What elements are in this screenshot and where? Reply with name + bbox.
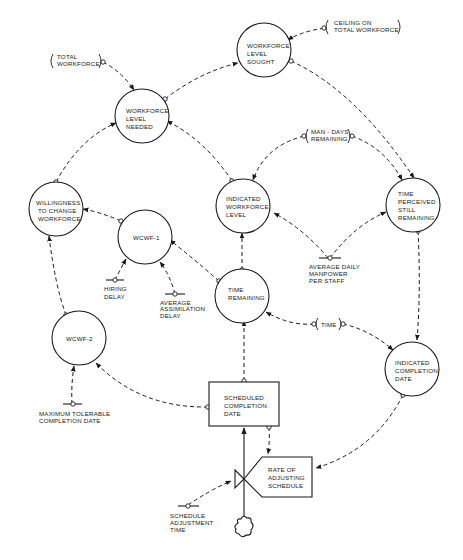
- node-label: SOUGHT: [247, 58, 275, 65]
- node-label: INDICATED: [226, 195, 261, 202]
- node-label: ASSIMILATION: [160, 305, 205, 312]
- level-scheduled-completion-date: SCHEDULED COMPLETION DATE: [209, 382, 279, 426]
- aux-workforce-level-needed: WORKFORCE LEVEL NEEDED: [115, 89, 169, 143]
- node-label: AVERAGE DAILY: [309, 263, 360, 270]
- node-label: WORKFORCE: [247, 42, 290, 49]
- node-label: TO CHANGE: [38, 207, 76, 214]
- const-average-daily-manpower-per-staff: AVERAGE DAILY MANPOWER PER STAFF: [309, 256, 360, 284]
- node-label: CEILING ON: [334, 19, 372, 26]
- node-label: WORKFORCE: [126, 107, 169, 114]
- node-label: WCWF-2: [66, 335, 93, 342]
- node-label: SCHEDULE: [268, 482, 303, 489]
- node-label: REMAINING: [311, 135, 348, 142]
- node-label: LEVEL: [126, 115, 147, 122]
- system-dynamics-diagram: WORKFORCE LEVEL SOUGHT WORKFORCE LEVEL N…: [0, 0, 463, 560]
- ext-man-days-remaining: MAN - DAYS REMAINING: [306, 128, 350, 143]
- const-schedule-adjustment-time: SCHEDULE ADJUSTMENT TIME: [170, 504, 214, 533]
- const-hiring-delay: HIRING DELAY: [104, 278, 127, 300]
- node-label: ADJUSTING: [268, 474, 305, 481]
- aux-wcwf-1: WCWF-1: [118, 210, 172, 264]
- node-label: REMAINING: [398, 214, 435, 221]
- rate-of-adjusting-schedule: RATE OF ADJUSTING SCHEDULE: [244, 457, 312, 497]
- node-label: WILLINGNESS: [36, 199, 81, 206]
- node-label: INDICATED: [395, 359, 430, 366]
- ext-ceiling-on-total-workforce: CEILING ON TOTAL WORKFORCE: [326, 19, 400, 34]
- node-label: TIME: [398, 190, 414, 197]
- node-label: REMAINING: [228, 294, 265, 301]
- node-label: WORKFORCE: [38, 215, 81, 222]
- node-label: TOTAL: [57, 53, 78, 60]
- aux-time-remaining: TIME REMAINING: [215, 269, 269, 323]
- node-label: MAXIMUM TOLERABLE: [39, 410, 110, 417]
- node-label: DELAY: [104, 293, 125, 300]
- aux-workforce-level-sought: WORKFORCE LEVEL SOUGHT: [237, 23, 291, 77]
- aux-willingness-to-change-workforce: WILLINGNESS TO CHANGE WORKFORCE: [29, 182, 83, 236]
- node-label: TIME: [170, 526, 186, 533]
- node-label: DELAY: [160, 312, 181, 319]
- rate-valve: [235, 470, 244, 488]
- node-label: TIME: [228, 286, 244, 293]
- aux-indicated-workforce-level: INDICATED WORKFORCE LEVEL: [216, 179, 270, 233]
- node-label: RATE OF: [268, 466, 296, 473]
- const-average-assimilation-delay: AVERAGE ASSIMILATION DELAY: [160, 292, 205, 319]
- node-label: SCHEDULE: [170, 512, 205, 519]
- node-label: WORKFORCE: [226, 203, 269, 210]
- node-label: TIME: [321, 321, 337, 328]
- node-label: PER STAFF: [309, 277, 344, 284]
- ext-time: TIME: [316, 318, 341, 330]
- node-label: COMPLETION: [395, 367, 438, 374]
- node-label: HIRING: [104, 285, 127, 292]
- node-label: SCHEDULED: [224, 394, 264, 401]
- node-label: WORKFORCE: [57, 60, 100, 67]
- node-label: LEVEL: [226, 211, 247, 218]
- node-label: PERCEIVED: [398, 198, 436, 205]
- node-label: NEEDED: [126, 123, 153, 130]
- aux-time-perceived-still-remaining: TIME PERCEIVED STILL REMAINING: [386, 178, 440, 232]
- information-links: [49, 28, 419, 505]
- const-maximum-tolerable-completion-date: MAXIMUM TOLERABLE COMPLETION DATE: [39, 402, 110, 424]
- node-label: DATE: [224, 410, 241, 417]
- node-label: ADJUSTMENT: [170, 519, 214, 526]
- source-cloud-icon: [235, 516, 253, 537]
- node-label: DATE: [395, 375, 412, 382]
- node-label: COMPLETION: [224, 402, 267, 409]
- ext-total-workforce: TOTAL WORKFORCE: [51, 53, 101, 68]
- node-label: WCWF-1: [133, 234, 160, 241]
- aux-indicated-completion-date: INDICATED COMPLETION DATE: [385, 342, 439, 396]
- node-label: MAN - DAYS: [311, 128, 349, 135]
- node-label: TOTAL WORKFORCE: [334, 26, 399, 33]
- aux-wcwf-2: WCWF-2: [52, 311, 106, 365]
- node-label: MANPOWER: [309, 270, 348, 277]
- node-label: LEVEL: [247, 50, 268, 57]
- node-label: STILL: [398, 206, 416, 213]
- node-label: COMPLETION DATE: [39, 417, 101, 424]
